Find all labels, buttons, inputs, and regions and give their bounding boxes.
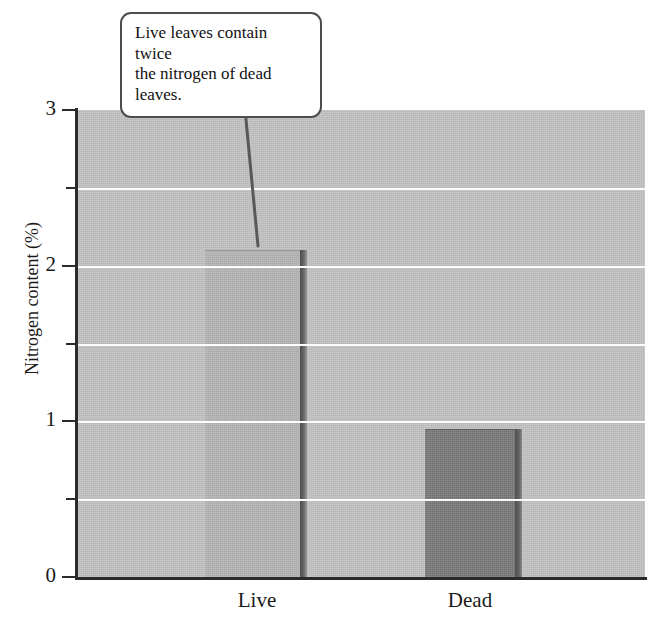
annotation-line-2: the nitrogen of dead leaves. <box>135 64 308 105</box>
bar-live-face <box>205 250 300 577</box>
gridline-2-5 <box>78 188 645 190</box>
y-tick-label-3: 3 <box>16 98 56 119</box>
annotation-callout: Live leaves contain twice the nitrogen o… <box>120 12 322 118</box>
x-tick-label-dead: Dead <box>400 588 540 613</box>
y-tick-1 <box>62 420 78 422</box>
y-tick-3 <box>62 109 78 111</box>
y-tick-label-0: 0 <box>16 565 56 586</box>
gridline-1-5 <box>78 344 645 346</box>
x-tick-label-live: Live <box>187 588 327 613</box>
y-tick-0 <box>62 576 78 578</box>
gridline-1-0 <box>78 421 645 423</box>
y-tick-2 <box>62 265 78 267</box>
gridline-2-0 <box>78 266 645 268</box>
x-axis-line <box>75 577 647 580</box>
plot-area <box>78 110 645 577</box>
y-tick-1-5 <box>66 343 78 345</box>
bar-dead-top-edge <box>425 429 515 430</box>
gridline-0-5 <box>78 499 645 501</box>
bar-dead-side-shadow <box>515 429 522 577</box>
y-tick-0-5 <box>66 498 78 500</box>
y-axis-title: Nitrogen content (%) <box>22 179 43 419</box>
bar-dead[interactable] <box>425 429 515 577</box>
bar-live[interactable] <box>205 250 300 577</box>
chart-figure: 3 2 1 0 Nitrogen content (%) Live Dead L… <box>0 0 657 620</box>
bar-live-side-shadow <box>300 250 307 577</box>
bar-dead-face <box>425 429 515 577</box>
bar-live-top-edge <box>205 250 300 251</box>
y-tick-2-5 <box>66 187 78 189</box>
annotation-line-1: Live leaves contain twice <box>135 23 308 64</box>
